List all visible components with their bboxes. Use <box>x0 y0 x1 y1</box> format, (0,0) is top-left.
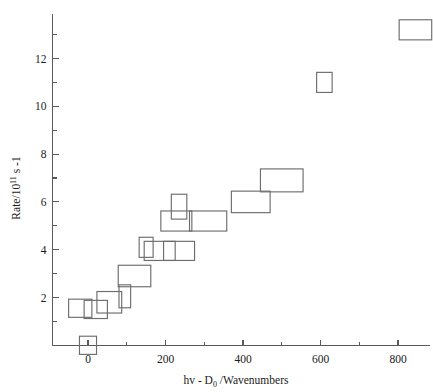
y-tick-label: 8 <box>41 148 47 160</box>
data-point-marker <box>190 211 227 231</box>
data-point-marker <box>164 241 195 260</box>
y-tick-label: 10 <box>35 100 47 112</box>
y-tick-label: 2 <box>41 292 47 304</box>
data-point-marker <box>231 191 270 213</box>
tick-marks <box>53 35 399 346</box>
y-axis-title-exponent: 11 <box>9 176 18 184</box>
data-point-marker <box>139 237 153 257</box>
plot-canvas: 246810120200400600800 hv - D0 /Wavenumbe… <box>0 0 433 392</box>
data-point-marker <box>84 300 107 318</box>
data-point-marker <box>317 72 333 92</box>
svg-text:hv - D0 /Wavenumbers: hv - D0 /Wavenumbers <box>184 374 289 389</box>
y-axis-title-prefix: Rate/10 <box>10 184 22 220</box>
axes <box>53 14 431 346</box>
y-tick-label: 6 <box>41 196 47 208</box>
svg-text:Rate/1011 s -1: Rate/1011 s -1 <box>9 156 22 220</box>
data-point-marker <box>399 20 432 40</box>
data-point-marker <box>260 169 303 192</box>
x-tick-label: 200 <box>157 353 175 365</box>
axis-spines <box>53 14 431 346</box>
data-point-marker <box>171 194 187 219</box>
x-axis-title-suffix: /Wavenumbers <box>217 374 289 386</box>
data-point-marker <box>97 292 122 314</box>
y-axis-title-suffix: s -1 <box>10 156 22 176</box>
data-point-marker <box>118 265 151 287</box>
x-tick-label: 400 <box>234 353 252 365</box>
x-axis-title: hv - D0 /Wavenumbers <box>184 374 289 389</box>
x-axis-title-prefix: hv - D <box>184 374 213 386</box>
y-tick-label: 4 <box>41 244 47 256</box>
data-markers <box>69 20 432 355</box>
y-tick-label: 12 <box>35 53 47 65</box>
data-point-marker <box>69 299 92 317</box>
x-tick-label: 600 <box>312 353 330 365</box>
data-point-marker <box>119 285 131 308</box>
scatter-plot-figure: 246810120200400600800 hv - D0 /Wavenumbe… <box>0 0 433 392</box>
x-tick-label: 800 <box>389 353 407 365</box>
y-axis-title: Rate/1011 s -1 <box>9 156 22 220</box>
